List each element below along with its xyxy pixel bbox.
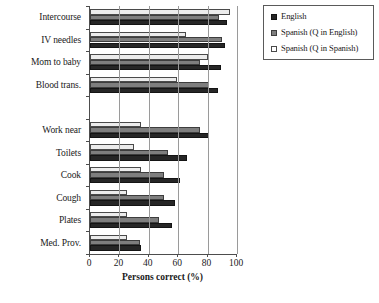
legend-swatch-icon bbox=[271, 30, 277, 36]
y-axis-label: Intercourse bbox=[39, 12, 81, 22]
x-axis-tick-label: 100 bbox=[229, 258, 243, 269]
y-axis-label: Cough bbox=[56, 193, 81, 203]
bar-group bbox=[90, 74, 237, 97]
x-axis-tick bbox=[148, 254, 149, 257]
gridline-100 bbox=[237, 6, 238, 254]
legend-item[interactable]: Spanish (Q in Spanish) bbox=[271, 44, 368, 53]
bar-group bbox=[90, 231, 237, 254]
chart-legend: EnglishSpanish (Q in English)Spanish (Q … bbox=[263, 5, 374, 60]
bar bbox=[90, 245, 141, 250]
gridline-80 bbox=[208, 6, 209, 254]
y-axis-label: Blood trans. bbox=[36, 80, 81, 90]
bar bbox=[90, 20, 227, 25]
bar-chart-figure: IntercourseIV needlesMom to babyBlood tr… bbox=[0, 0, 379, 303]
bar bbox=[90, 178, 180, 183]
y-axis-label: Cook bbox=[61, 170, 81, 180]
x-axis-tick bbox=[89, 254, 90, 257]
y-axis-label: Work near bbox=[42, 125, 81, 135]
x-axis-tick bbox=[177, 254, 178, 257]
x-axis-tick bbox=[118, 254, 119, 257]
bar bbox=[90, 223, 172, 228]
bar-group bbox=[90, 51, 237, 74]
bar-group bbox=[90, 186, 237, 209]
gridline-60 bbox=[178, 6, 179, 254]
legend-item[interactable]: English bbox=[271, 12, 368, 21]
y-axis-labels: IntercourseIV needlesMom to babyBlood tr… bbox=[0, 6, 86, 254]
bar-group bbox=[90, 96, 237, 119]
bar bbox=[90, 88, 218, 93]
bar bbox=[90, 200, 175, 205]
bar-group bbox=[90, 119, 237, 142]
legend-label: Spanish (Q in English) bbox=[281, 28, 357, 37]
bar bbox=[90, 43, 225, 48]
bar-rows bbox=[90, 6, 237, 254]
gridline-40 bbox=[149, 6, 150, 254]
bar-group bbox=[90, 141, 237, 164]
x-axis-tick-label: 20 bbox=[114, 258, 124, 269]
bar-group bbox=[90, 29, 237, 52]
y-axis-label: Plates bbox=[59, 215, 81, 225]
x-axis-title: Persons correct (%) bbox=[89, 272, 236, 282]
bar bbox=[90, 65, 221, 70]
x-axis-tick-labels: 020406080100 bbox=[0, 258, 379, 270]
legend-swatch-icon bbox=[271, 14, 277, 20]
plot-area bbox=[89, 6, 237, 255]
page-caption-remnant bbox=[4, 294, 334, 303]
y-axis-label: Mom to baby bbox=[31, 57, 81, 67]
bar bbox=[90, 155, 187, 160]
x-axis-tick-label: 40 bbox=[143, 258, 153, 269]
x-axis-tick bbox=[236, 254, 237, 257]
legend-label: English bbox=[281, 12, 307, 21]
bar-group bbox=[90, 209, 237, 232]
y-axis-label: IV needles bbox=[41, 35, 81, 45]
y-axis-label: Toilets bbox=[56, 148, 81, 158]
bar-group bbox=[90, 164, 237, 187]
gridline-20 bbox=[119, 6, 120, 254]
x-axis-tick-label: 60 bbox=[172, 258, 182, 269]
legend-label: Spanish (Q in Spanish) bbox=[281, 44, 358, 53]
bar-group bbox=[90, 6, 237, 29]
x-axis-tick-label: 80 bbox=[202, 258, 212, 269]
x-axis-tick bbox=[207, 254, 208, 257]
legend-item[interactable]: Spanish (Q in English) bbox=[271, 28, 368, 37]
y-axis-label: Med. Prov. bbox=[40, 238, 81, 248]
legend-swatch-icon bbox=[271, 46, 277, 52]
x-axis-tick-label: 0 bbox=[87, 258, 92, 269]
